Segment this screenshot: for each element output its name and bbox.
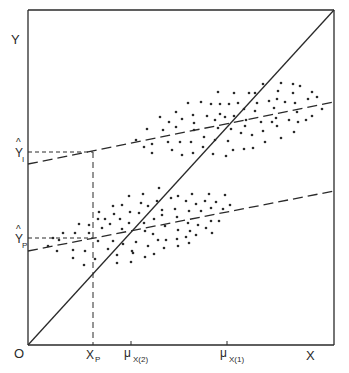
scatter-point [153,218,156,221]
scatter-point [112,240,115,243]
scatter-point [157,239,160,242]
regression-diagram: Y X O ^ Y I ^ Y P X P μ X(2) μ X(1) [0,0,349,373]
scatter-point [132,252,135,255]
scatter-point [294,102,297,105]
scatter-point [321,108,324,111]
scatter-point [230,128,233,131]
scatter-point [164,225,167,228]
scatter-point [228,103,231,106]
scatter-point [192,152,195,155]
scatter-point [176,216,179,219]
scatter-point [144,256,147,259]
x-tick-label-mu-x2: μ X(2) [124,346,148,364]
scatter-point [97,240,100,243]
scatter-point [189,230,192,233]
scatter-point [122,243,125,246]
scatter-point [200,210,203,213]
scatter-point [128,222,131,225]
scatter-point [94,258,97,261]
scatter-point [252,147,255,150]
scatter-point [276,125,279,128]
scatter-point [222,208,225,211]
scatter-point [187,102,190,105]
scatter-point [277,90,280,93]
scatter-point [147,205,150,208]
x-tick-label-mu-x1: μ X(1) [220,346,244,364]
scatter-point [232,149,235,152]
xp-subscript: P [95,355,100,364]
scatter-point [244,125,247,128]
scatter-point [121,204,124,207]
scatter-point [200,101,203,104]
scatter-point [138,212,141,215]
scatter-point [214,119,217,122]
scatter-point [273,107,276,110]
scatter-point [171,149,174,152]
scatter-point [215,201,218,204]
scatter-point [135,241,138,244]
scatter-point [83,264,86,267]
scatter-point [88,232,91,235]
xp-base: X [86,348,94,362]
scatter-point [143,222,146,225]
lower-regression-line [28,191,334,251]
y-tick-label-yhat-i: ^ Y I [15,137,24,164]
scatter-point [219,113,222,116]
scatter-point [212,153,215,156]
mu-x2-subscript: X(2) [133,355,148,364]
scatter-point [305,119,308,122]
scatter-point [163,247,166,250]
scatter-point [243,148,246,151]
scatter-point [229,204,232,207]
scatter-point [271,121,274,124]
scatter-point [210,220,213,223]
scatter-point [190,141,193,144]
scatter-point [62,232,65,235]
scatter-point [119,218,122,221]
upper-scatter-cluster [135,82,324,158]
scatter-point [97,218,100,221]
scatter-point [177,245,180,248]
scatter-point [280,137,283,140]
scatter-point [140,202,143,205]
scatter-point [219,103,222,106]
scatter-point [129,211,132,214]
scatter-point [280,82,283,85]
scatter-point [47,245,50,248]
scatter-point [162,129,165,132]
scatter-point [288,119,291,122]
scatter-point [130,261,133,264]
scatter-point [256,102,259,105]
scatter-point [224,194,227,197]
scatter-point [72,257,75,260]
scatter-point [156,200,159,203]
scatter-point [195,203,198,206]
scatter-point [193,129,196,132]
scatter-point [147,245,150,248]
scatter-point [151,152,154,155]
scatter-point [74,232,77,235]
scatter-point [292,92,295,95]
scatter-point [297,121,300,124]
scatter-point [233,115,236,118]
scatter-point [107,248,110,251]
scatter-point [262,83,265,86]
scatter-point [299,85,302,88]
scatter-point [206,115,209,118]
scatter-point [128,195,131,198]
scatter-point [197,224,200,227]
scatter-point [177,229,180,232]
scatter-point [248,92,251,95]
scatter-point [116,262,119,265]
scatter-point [276,98,279,101]
scatter-point [204,200,207,203]
scatter-point [161,209,164,212]
scatter-point [284,101,287,104]
scatter-point [158,187,161,190]
scatter-point [175,111,178,114]
scatter-point [52,237,55,240]
scatter-point [135,139,138,142]
scatter-point [214,139,217,142]
scatter-point [174,208,177,211]
diagonal-line [28,10,334,345]
